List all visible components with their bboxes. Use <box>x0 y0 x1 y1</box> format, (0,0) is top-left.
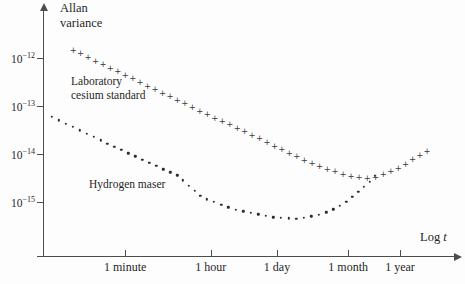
maser-marker <box>162 168 164 170</box>
maser-marker <box>339 204 341 206</box>
y-tick <box>37 106 44 107</box>
maser-marker <box>318 213 320 215</box>
y-axis <box>43 9 44 257</box>
x-tick <box>348 250 349 256</box>
x-tick-label: 1 hour <box>195 260 226 275</box>
series-label-cesium-line2: cesium standard <box>71 88 145 102</box>
maser-marker <box>176 174 178 176</box>
maser-marker <box>332 208 334 210</box>
cesium-marker: + <box>347 172 354 181</box>
cesium-marker: + <box>204 110 211 119</box>
cesium-marker: + <box>129 74 136 83</box>
maser-marker <box>113 146 115 148</box>
cesium-marker: + <box>316 161 323 170</box>
maser-marker <box>303 216 305 218</box>
y-tick <box>37 154 44 155</box>
maser-marker <box>287 217 289 219</box>
cesium-marker: + <box>263 138 270 147</box>
maser-marker <box>257 213 259 215</box>
maser-marker <box>188 184 190 186</box>
cesium-marker: + <box>219 117 226 126</box>
cesium-marker: + <box>137 78 144 87</box>
cesium-marker: + <box>107 63 114 72</box>
maser-marker <box>99 139 101 141</box>
cesium-marker: + <box>92 56 99 65</box>
cesium-marker: + <box>114 67 121 76</box>
cesium-marker: + <box>234 124 241 133</box>
maser-marker <box>193 189 195 191</box>
y-tick-label: 10−15 <box>0 195 35 209</box>
maser-marker <box>242 210 244 212</box>
maser-marker <box>106 142 108 144</box>
maser-marker <box>72 126 74 128</box>
maser-marker <box>65 122 67 124</box>
maser-marker <box>148 162 150 164</box>
maser-marker <box>127 152 129 154</box>
maser-marker <box>325 211 327 213</box>
series-label-maser: Hydrogen maser <box>89 177 165 191</box>
y-axis-title-line2: variance <box>60 16 102 31</box>
cesium-marker: + <box>286 148 293 157</box>
x-tick <box>277 250 278 256</box>
x-axis-title-prefix: Log <box>420 230 443 244</box>
maser-marker <box>134 155 136 157</box>
cesium-marker: + <box>271 141 278 150</box>
cesium-marker: + <box>181 99 188 108</box>
cesium-marker: + <box>241 127 248 136</box>
y-axis-arrow-icon <box>40 3 48 11</box>
cesium-marker: + <box>70 46 77 55</box>
cesium-marker: + <box>356 173 363 182</box>
maser-marker <box>120 149 122 151</box>
cesium-marker: + <box>423 147 430 156</box>
cesium-marker: + <box>409 155 416 164</box>
maser-marker <box>79 129 81 131</box>
cesium-marker: + <box>308 158 315 167</box>
maser-marker <box>363 186 365 188</box>
maser-marker <box>310 215 312 217</box>
cesium-marker: + <box>387 167 394 176</box>
maser-marker <box>51 116 53 118</box>
cesium-marker: + <box>189 103 196 112</box>
maser-marker <box>86 132 88 134</box>
allan-variance-figure: Allan variance Log t Laboratory cesium s… <box>0 0 465 284</box>
cesium-marker: + <box>249 131 256 140</box>
cesium-marker: + <box>77 49 84 58</box>
maser-marker <box>295 217 297 219</box>
cesium-marker: + <box>293 152 300 161</box>
maser-marker <box>182 179 184 181</box>
x-axis <box>37 256 456 257</box>
y-tick-label: 10−13 <box>0 99 35 113</box>
maser-marker <box>213 201 215 203</box>
cesium-marker: + <box>339 170 346 179</box>
maser-marker <box>206 198 208 200</box>
y-axis-title-line1: Allan <box>60 1 102 16</box>
cesium-marker: + <box>416 151 423 160</box>
cesium-marker: + <box>380 170 387 179</box>
maser-marker <box>272 216 274 218</box>
y-tick-label: 10−12 <box>0 51 35 65</box>
maser-marker <box>141 158 143 160</box>
maser-marker <box>199 195 201 197</box>
cesium-marker: + <box>122 71 129 80</box>
maser-marker <box>265 215 267 217</box>
cesium-marker: + <box>324 165 331 174</box>
x-axis-title: Log t <box>420 230 447 245</box>
cesium-marker: + <box>278 145 285 154</box>
maser-marker <box>280 217 282 219</box>
cesium-marker: + <box>301 155 308 164</box>
maser-marker <box>155 165 157 167</box>
cesium-marker: + <box>85 53 92 62</box>
y-tick <box>37 202 44 203</box>
cesium-marker: + <box>144 81 151 90</box>
maser-marker <box>345 200 347 202</box>
x-axis-arrow-icon <box>454 253 462 261</box>
y-tick-label: 10−14 <box>0 147 35 161</box>
cesium-marker: + <box>99 60 106 69</box>
x-tick <box>211 250 212 256</box>
maser-marker <box>169 171 171 173</box>
maser-marker <box>220 203 222 205</box>
x-tick <box>125 250 126 256</box>
maser-marker <box>92 136 94 138</box>
y-tick <box>37 58 44 59</box>
x-tick-label: 1 month <box>328 260 368 275</box>
